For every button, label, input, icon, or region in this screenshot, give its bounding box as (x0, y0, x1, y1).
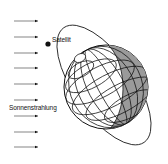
sunlight-label: Sonnenstrahlung (9, 104, 57, 111)
satellite-orbit-diagram (0, 0, 168, 164)
satellite-dot (45, 41, 50, 46)
satellite-label: Satellit (52, 36, 71, 43)
earth-globe (54, 33, 160, 141)
sunlight-arrows (14, 21, 38, 147)
